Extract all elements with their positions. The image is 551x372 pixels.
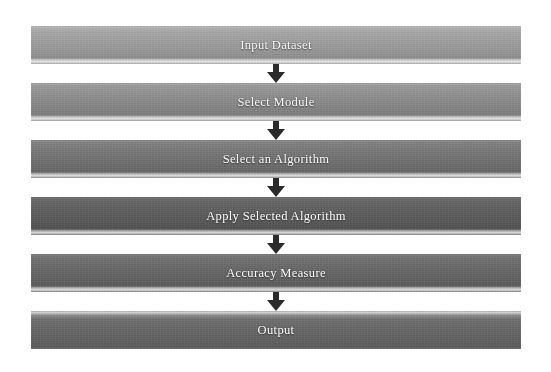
flowchart-step-select-an-algorithm[interactable]: Select an Algorithm <box>31 140 521 178</box>
arrow-down-icon <box>265 292 287 311</box>
flowchart-connector-4 <box>31 235 521 254</box>
flowchart-step-output[interactable]: Output <box>31 311 521 349</box>
flowchart-canvas: Input Dataset Select Module <box>0 0 551 372</box>
flowchart-steps-container: Input Dataset Select Module <box>31 26 521 349</box>
flowchart-step-label: Select Module <box>237 96 314 109</box>
arrow-down-icon <box>265 235 287 254</box>
flowchart-connector-2 <box>31 121 521 140</box>
flowchart-step-select-module[interactable]: Select Module <box>31 83 521 121</box>
flowchart-connector-3 <box>31 178 521 197</box>
flowchart-step-label: Apply Selected Algorithm <box>206 210 346 223</box>
arrow-down-icon <box>265 121 287 140</box>
flowchart-step-label: Select an Algorithm <box>223 153 330 166</box>
flowchart-step-accuracy-measure[interactable]: Accuracy Measure <box>31 254 521 292</box>
arrow-down-icon <box>265 64 287 83</box>
flowchart-step-label: Input Dataset <box>240 39 312 52</box>
flowchart-step-apply-selected-algorithm[interactable]: Apply Selected Algorithm <box>31 197 521 235</box>
arrow-down-icon <box>265 178 287 197</box>
flowchart-connector-1 <box>31 64 521 83</box>
flowchart-step-label: Accuracy Measure <box>226 267 326 280</box>
flowchart-step-input-dataset[interactable]: Input Dataset <box>31 26 521 64</box>
flowchart-connector-5 <box>31 292 521 311</box>
flowchart-step-label: Output <box>258 324 295 337</box>
